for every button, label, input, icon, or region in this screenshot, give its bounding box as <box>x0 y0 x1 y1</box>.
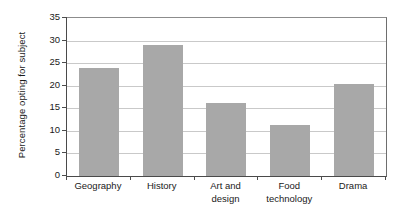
y-axis-tick-label: 35 <box>34 12 60 22</box>
x-axis-category-label-line: History <box>130 180 194 193</box>
x-axis-category-label: Foodtechnology <box>257 180 321 205</box>
y-axis-tick-mark <box>62 152 67 153</box>
bar-slot <box>322 18 386 176</box>
y-axis-tick-label: 30 <box>34 35 60 45</box>
y-axis-tick-mark <box>62 175 67 176</box>
plot-area <box>66 17 387 177</box>
x-axis-tick-mark <box>385 176 386 180</box>
x-axis-category-labels: GeographyHistoryArt anddesignFoodtechnol… <box>66 180 385 205</box>
bars-group <box>67 18 386 176</box>
x-axis-category-label-line: Geography <box>66 180 130 193</box>
x-axis-category-label-line: technology <box>257 193 321 206</box>
y-axis-tick-mark <box>62 130 67 131</box>
bar-slot <box>67 18 131 176</box>
bar <box>206 103 246 176</box>
y-axis-tick-mark <box>62 40 67 41</box>
x-axis-category-label-line: Art and <box>194 180 258 193</box>
x-axis-category-label-line: Food <box>257 180 321 193</box>
y-axis-tick-mark <box>62 17 67 18</box>
bar-slot <box>131 18 195 176</box>
y-axis-tick-label: 0 <box>34 170 60 180</box>
y-axis-tick-mark <box>62 62 67 63</box>
x-axis-category-label: Art anddesign <box>194 180 258 205</box>
x-axis-category-label: Drama <box>321 180 385 205</box>
x-axis-category-label: History <box>130 180 194 205</box>
bar-slot <box>195 18 259 176</box>
bar-slot <box>258 18 322 176</box>
bar-chart-figure: Percentage opting for subject 0510152025… <box>0 0 407 214</box>
y-axis-tick-mark <box>62 85 67 86</box>
y-axis-tick-mark <box>62 107 67 108</box>
y-axis-tick-label: 10 <box>34 125 60 135</box>
x-axis-category-label: Geography <box>66 180 130 205</box>
y-axis-tick-label: 15 <box>34 103 60 113</box>
x-axis-category-label-line: design <box>194 193 258 206</box>
y-axis-tick-label: 25 <box>34 57 60 67</box>
bar <box>79 68 119 176</box>
x-axis-category-label-line: Drama <box>321 180 385 193</box>
y-axis-tick-label: 20 <box>34 80 60 90</box>
y-axis-tick-label: 5 <box>34 148 60 158</box>
bar <box>143 45 183 176</box>
bar <box>270 125 310 176</box>
y-axis-tick-labels: 05101520253035 <box>34 17 60 175</box>
bar <box>334 84 374 176</box>
y-axis-title: Percentage opting for subject <box>14 5 30 185</box>
